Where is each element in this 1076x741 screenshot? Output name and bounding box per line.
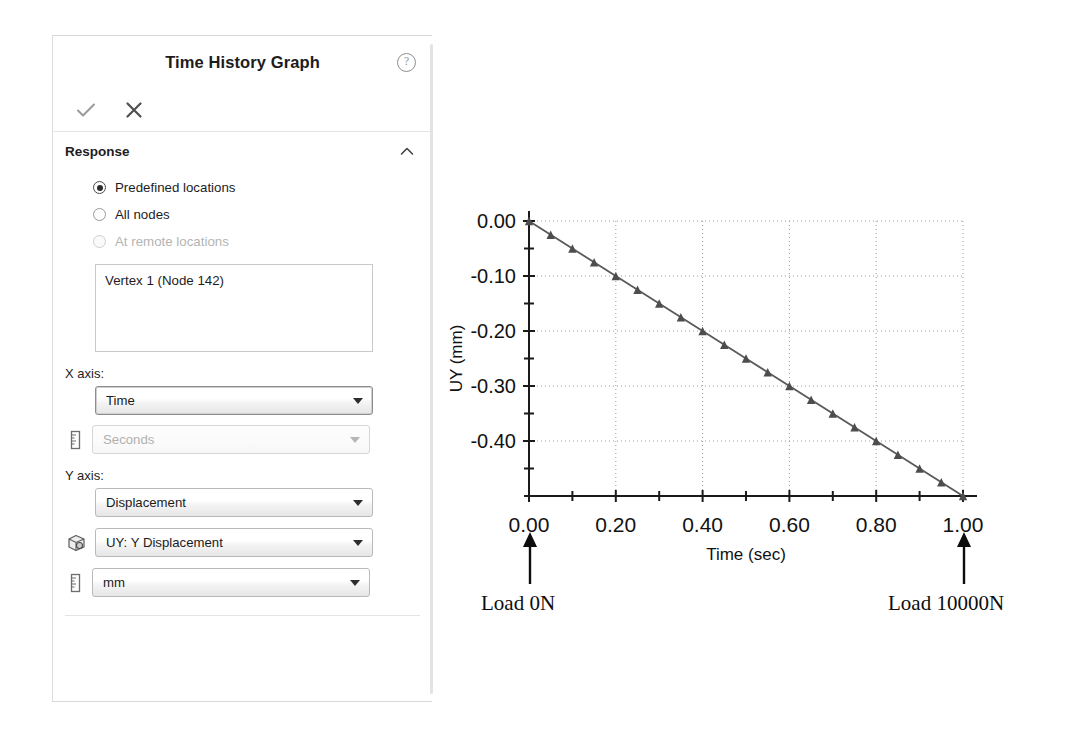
y-axis-component-select[interactable]: UY: Y Displacement: [95, 528, 373, 557]
data-point-marker: [785, 382, 793, 390]
radio-all-nodes[interactable]: All nodes: [93, 201, 432, 228]
data-point-marker: [612, 272, 620, 280]
radio-indicator: [93, 208, 106, 221]
y-axis-quantity-row: Displacement: [53, 488, 432, 517]
y-axis-tick-label: -0.40: [470, 430, 516, 452]
y-axis-quantity-select[interactable]: Displacement: [95, 488, 373, 517]
up-arrow-icon-left: [519, 530, 541, 586]
data-point-marker: [850, 423, 858, 431]
select-value: mm: [103, 575, 125, 590]
y-axis-component-row: UY: Y Displacement: [53, 528, 432, 557]
chevron-down-icon[interactable]: [353, 398, 363, 404]
cube-icon: [66, 533, 87, 553]
radio-predefined-locations[interactable]: Predefined locations: [93, 174, 432, 201]
radio-label: At remote locations: [115, 234, 229, 249]
x-axis-tick-label: 0.20: [595, 513, 636, 536]
panel-header: Time History Graph ?: [53, 36, 432, 88]
radio-indicator: [93, 181, 106, 194]
panel-divider: [65, 615, 420, 616]
y-axis-tick-label: -0.20: [470, 320, 516, 342]
data-point-marker: [547, 231, 555, 239]
select-value: Seconds: [103, 432, 154, 447]
chevron-up-icon[interactable]: [400, 146, 414, 156]
y-axis-units-row: mm: [53, 568, 432, 597]
x-axis-quantity-row: Time: [53, 386, 432, 415]
x-axis-tick-label: 0.80: [856, 513, 897, 536]
close-icon: [125, 101, 143, 119]
data-point-marker: [633, 286, 641, 294]
data-point-marker: [590, 258, 598, 266]
y-axis-units-select[interactable]: mm: [92, 568, 370, 597]
select-value: UY: Y Displacement: [106, 535, 223, 550]
data-point-marker: [764, 368, 772, 376]
chevron-down-icon[interactable]: [350, 580, 360, 586]
data-point-marker: [829, 409, 837, 417]
data-point-marker: [655, 299, 663, 307]
annotation-load-start: Load 0N: [481, 591, 555, 616]
ruler-icon: [69, 430, 84, 450]
radio-label: All nodes: [115, 207, 170, 222]
data-point-marker: [720, 341, 728, 349]
selected-locations-listbox[interactable]: Vertex 1 (Node 142): [95, 264, 373, 352]
y-axis-label: Y axis:: [53, 454, 432, 488]
data-point-marker: [915, 464, 923, 472]
select-value: Displacement: [106, 495, 186, 510]
help-question-icon[interactable]: ?: [397, 53, 416, 72]
list-item[interactable]: Vertex 1 (Node 142): [105, 273, 363, 288]
data-point-marker: [937, 478, 945, 486]
data-point-marker: [677, 313, 685, 321]
section-header-response[interactable]: Response: [53, 132, 432, 170]
y-axis-tick-label: 0.00: [477, 210, 516, 232]
data-point-marker: [807, 396, 815, 404]
x-axis-units-select: Seconds: [92, 425, 370, 454]
annotation-load-end: Load 10000N: [888, 591, 1004, 616]
y-axis-title: UY (mm): [447, 325, 466, 393]
x-axis-label: X axis:: [53, 352, 432, 386]
data-point-marker: [742, 354, 750, 362]
up-arrow-icon-right: [953, 530, 975, 586]
y-axis-tick-label: -0.30: [470, 375, 516, 397]
panel-scrollbar[interactable]: [430, 44, 433, 694]
check-icon: [76, 102, 96, 118]
x-axis-tick-label: 0.40: [682, 513, 723, 536]
x-axis-quantity-select[interactable]: Time: [95, 386, 373, 415]
data-point-marker: [894, 451, 902, 459]
page-title: Time History Graph: [165, 53, 320, 72]
cancel-button[interactable]: [121, 97, 147, 123]
panel-toolbar: [53, 88, 432, 132]
radio-label: Predefined locations: [115, 180, 236, 195]
select-value: Time: [106, 393, 135, 408]
chevron-down-icon[interactable]: [353, 500, 363, 506]
x-axis-tick-label: 0.60: [769, 513, 810, 536]
chevron-down-icon[interactable]: [353, 540, 363, 546]
x-axis-title: Time (sec): [706, 545, 786, 564]
radio-at-remote-locations: At remote locations: [93, 228, 432, 255]
ruler-icon: [69, 573, 84, 593]
response-radio-group: Predefined locations All nodes At remote…: [53, 170, 432, 255]
chevron-down-icon: [350, 437, 360, 443]
radio-indicator: [93, 235, 106, 248]
y-axis-tick-label: -0.10: [470, 265, 516, 287]
data-point-marker: [568, 244, 576, 252]
accept-button[interactable]: [73, 97, 99, 123]
section-title: Response: [65, 144, 130, 159]
property-manager-panel: Time History Graph ? Response Predefined…: [52, 35, 432, 702]
x-axis-units-row: Seconds: [53, 425, 432, 454]
